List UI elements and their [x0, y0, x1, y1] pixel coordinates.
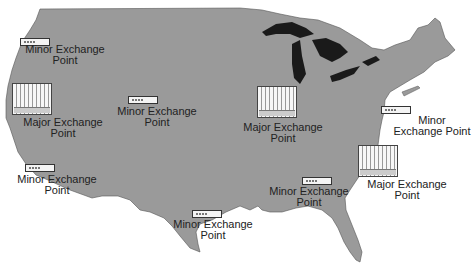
minor-exchange-icon	[302, 177, 332, 185]
minor-exchange-icon	[25, 164, 55, 172]
exchange-label-mid-atlantic: Major Exchange Point	[362, 179, 452, 201]
minor-exchange-icon	[128, 96, 158, 104]
long-island	[402, 86, 420, 96]
exchange-label-texas: Minor Exchange Point	[168, 219, 258, 241]
minor-exchange-icon	[192, 210, 222, 218]
exchange-label-southern-california: Minor Exchange Point	[12, 174, 102, 196]
major-exchange-icon	[257, 86, 297, 118]
major-exchange-icon	[12, 83, 52, 115]
exchange-label-pacific-northwest: Minor Exchange Point	[20, 44, 110, 66]
exchange-label-mountain-west: Minor Exchange Point	[112, 106, 202, 128]
exchange-label-northeast: Minor Exchange Point	[392, 115, 472, 137]
exchange-label-southeast: Minor Exchange Point	[264, 186, 354, 208]
exchange-label-california-north: Major Exchange Point	[18, 117, 108, 139]
minor-exchange-icon	[381, 106, 411, 114]
major-exchange-icon	[358, 145, 398, 177]
exchange-label-midwest: Major Exchange Point	[238, 122, 328, 144]
